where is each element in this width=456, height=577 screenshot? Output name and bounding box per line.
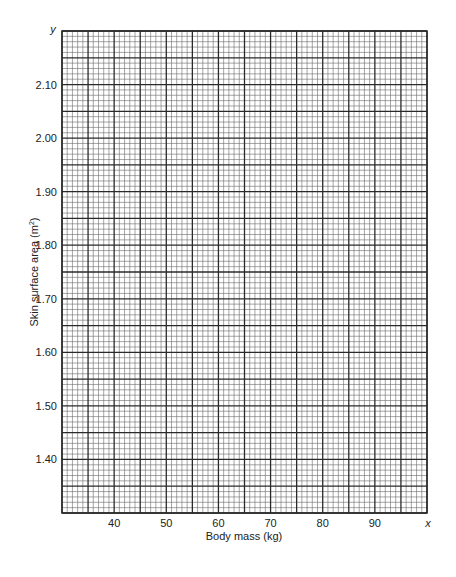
y-tick-label: 2.10 <box>36 79 57 91</box>
chart-canvas: 405060708090 1.401.501.601.701.801.902.0… <box>0 0 456 577</box>
y-tick-label: 1.60 <box>36 346 57 358</box>
x-tick-labels: 405060708090 <box>108 517 381 529</box>
x-axis-title: Body mass (kg) <box>206 530 282 542</box>
x-tick-label: 50 <box>160 517 172 529</box>
y-tick-label: 1.40 <box>36 453 57 465</box>
y-tick-label: 1.50 <box>36 400 57 412</box>
x-tick-label: 70 <box>264 517 276 529</box>
graph-paper-chart: 405060708090 1.401.501.601.701.801.902.0… <box>0 0 456 577</box>
y-tick-label: 2.00 <box>36 132 57 144</box>
y-axis-title-tail: ) <box>28 217 40 221</box>
x-axis-symbol: x <box>424 517 431 529</box>
x-tick-label: 40 <box>108 517 120 529</box>
y-tick-label: 1.90 <box>36 186 57 198</box>
y-axis-title: Skin surface area (m2) <box>28 217 40 326</box>
y-axis-title-main: Skin surface area (m <box>28 225 40 326</box>
x-tick-label: 80 <box>317 517 329 529</box>
x-tick-label: 60 <box>212 517 224 529</box>
major-gridlines <box>62 31 427 513</box>
y-axis-symbol: y <box>49 23 57 35</box>
x-tick-label: 90 <box>369 517 381 529</box>
